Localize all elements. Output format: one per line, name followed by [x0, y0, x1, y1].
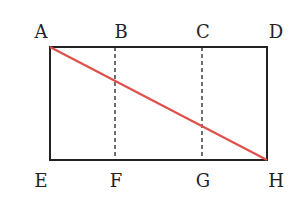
diagonal-AH	[50, 47, 267, 160]
label-F: F	[110, 170, 123, 191]
label-A: A	[34, 21, 49, 42]
label-H: H	[268, 170, 284, 191]
label-D: D	[269, 21, 283, 42]
label-G: G	[196, 170, 210, 191]
geometry-diagram: A B C D E F G H	[0, 0, 307, 204]
label-C: C	[196, 21, 210, 42]
label-E: E	[34, 170, 47, 191]
label-B: B	[114, 21, 127, 42]
